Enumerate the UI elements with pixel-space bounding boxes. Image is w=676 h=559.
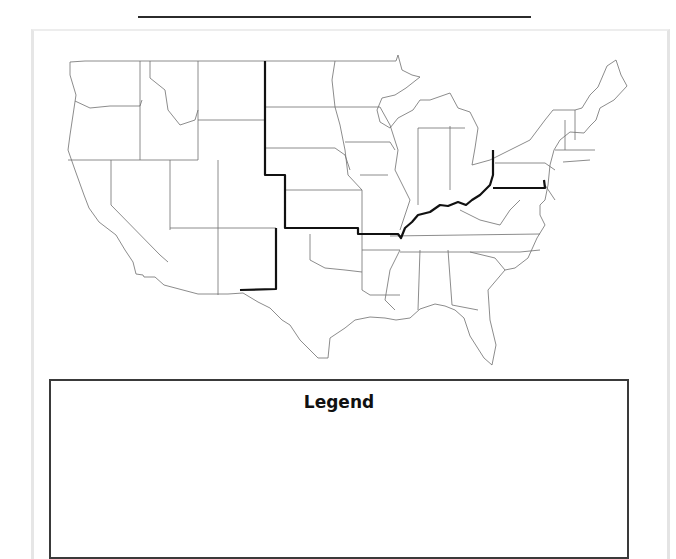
state-outlines: [68, 55, 627, 365]
country-outline: [68, 55, 627, 365]
us-map: [0, 0, 676, 380]
legend-title: Legend: [51, 392, 627, 412]
legend-entries-area[interactable]: [51, 421, 627, 557]
legend-box: Legend: [49, 379, 629, 559]
